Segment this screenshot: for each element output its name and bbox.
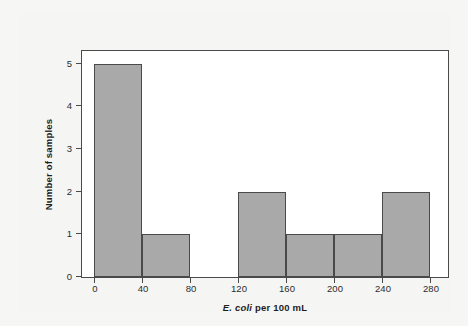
x-tick-label-280: 280 xyxy=(423,284,439,294)
histogram-bar xyxy=(334,234,382,277)
y-tick-label-4: 4 xyxy=(67,102,72,112)
x-tick-label-40: 40 xyxy=(138,284,149,294)
y-tick-label-2: 2 xyxy=(67,187,72,197)
x-axis-title: E. coli per 100 mL xyxy=(81,302,449,313)
x-tick-label-120: 120 xyxy=(231,284,247,294)
histogram-bar xyxy=(142,234,190,277)
y-tick-label-0: 0 xyxy=(67,272,72,282)
x-tick-label-80: 80 xyxy=(186,284,197,294)
x-tick-280: 280 xyxy=(430,277,431,283)
x-tick-label-240: 240 xyxy=(375,284,391,294)
x-tick-label-0: 0 xyxy=(92,284,97,294)
figure-inner-panel: Number of samples 012345 040801201602002… xyxy=(18,14,450,312)
x-tick-120: 120 xyxy=(238,277,239,283)
x-axis-title-units: per 100 mL xyxy=(252,302,307,313)
x-tick-40: 40 xyxy=(142,277,143,283)
y-axis-title: Number of samples xyxy=(42,50,56,278)
histogram-bar xyxy=(382,192,430,277)
x-tick-80: 80 xyxy=(190,277,191,283)
histogram-bars xyxy=(82,51,448,277)
y-tick-label-3: 3 xyxy=(67,144,72,154)
x-tick-label-160: 160 xyxy=(279,284,295,294)
y-tick-label-1: 1 xyxy=(67,230,72,240)
plot-area: 012345 04080120160200240280 xyxy=(81,50,449,278)
x-tick-200: 200 xyxy=(334,277,335,283)
histogram-bar xyxy=(238,192,286,277)
x-tick-160: 160 xyxy=(286,277,287,283)
x-tick-240: 240 xyxy=(382,277,383,283)
histogram-bar xyxy=(94,64,142,277)
x-tick-0: 0 xyxy=(94,277,95,283)
x-axis-title-species: E. coli xyxy=(223,302,252,313)
y-axis-title-text: Number of samples xyxy=(44,118,55,210)
x-tick-label-200: 200 xyxy=(327,284,343,294)
figure-canvas: Number of samples 012345 040801201602002… xyxy=(0,0,468,326)
y-tick-label-5: 5 xyxy=(67,59,72,69)
histogram-bar xyxy=(286,234,334,277)
